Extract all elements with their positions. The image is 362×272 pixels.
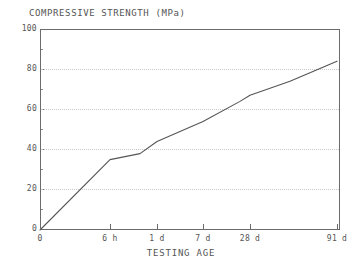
chart-title: COMPRESSIVE STRENGTH (MPa) (29, 8, 185, 18)
x-tick-mark-91d (337, 224, 338, 230)
chart-figure: COMPRESSIVE STRENGTH (MPa) 100 80 60 40 … (0, 0, 362, 272)
y-tick-label-60: 60 (13, 105, 37, 113)
x-tick-label-1d: 1 d (137, 234, 177, 243)
x-tick-mark-0 (40, 224, 41, 230)
y-tick-label-0: 0 (13, 225, 37, 233)
y-tick-label-20: 20 (13, 185, 37, 193)
x-tick-mark-6h (110, 224, 111, 230)
x-tick-mark-1d (157, 224, 158, 230)
y-tick-label-40: 40 (13, 145, 37, 153)
x-tick-mark-28d (250, 224, 251, 230)
y-tick-label-80: 80 (13, 65, 37, 73)
x-tick-label-28d: 28 d (230, 234, 270, 243)
compressive-strength-curve (40, 61, 337, 230)
x-tick-label-91d: 91 d (317, 234, 357, 243)
x-tick-label-6h: 6 h (90, 234, 130, 243)
x-axis-title: TESTING AGE (0, 248, 362, 258)
x-tick-label-0: 0 (20, 234, 60, 243)
x-tick-label-7d: 7 d (183, 234, 223, 243)
x-tick-mark-7d (203, 224, 204, 230)
y-tick-label-100: 100 (13, 25, 37, 33)
data-series-line (40, 29, 340, 230)
